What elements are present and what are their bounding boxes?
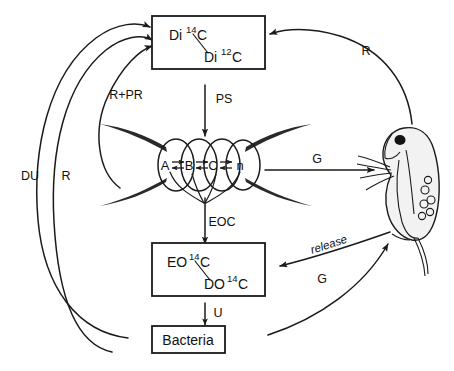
algal-chain-group: A B C n (100, 124, 312, 206)
spine-lower-left (100, 178, 167, 206)
eoc-label: EOC (208, 215, 235, 229)
dark-uptake-label: DU (21, 169, 39, 183)
dic-denominator-suffix: C (232, 49, 242, 65)
carbon-flow-diagram: A B C n (0, 0, 454, 371)
respiration-photorespiration-arc-group (99, 46, 152, 188)
eoc-numerator-prefix: EO (167, 254, 187, 270)
dic-numerator-sup: 14 (186, 24, 197, 35)
respiration-right-arc-group (270, 30, 412, 124)
eoc-denominator-prefix: DO (204, 276, 225, 292)
eoc-numerator-sup: 14 (189, 251, 200, 262)
respiration-right-arrow (270, 30, 412, 124)
zooplankton-daphnia (357, 128, 439, 276)
grazing-algae-label: G (312, 152, 322, 166)
algal-cell-b-label: B (185, 158, 194, 173)
daphnia-eye (395, 135, 406, 145)
uptake-label: U (213, 306, 222, 320)
diagram-canvas: A B C n (0, 0, 454, 371)
daphnia-antenna-3 (360, 173, 392, 178)
algal-cell-c-label: C (208, 158, 217, 173)
grazing-bacteria-arc-group (268, 244, 388, 335)
dic-denominator-prefix: Di (204, 49, 217, 65)
grazing-bacteria-label: G (317, 272, 327, 286)
algal-cell-a-label: A (161, 158, 170, 173)
respiration-photorespiration-label: R+PR (109, 88, 143, 102)
eoc-numerator-suffix: C (200, 254, 210, 270)
dic-numerator-prefix: Di (169, 27, 182, 43)
eoc-denominator-suffix: C (238, 276, 248, 292)
grazing-bacteria-arrow (268, 244, 388, 335)
respiration-right-label: R (361, 44, 370, 58)
spine-upper-left (100, 124, 167, 152)
bacteria-box-label: Bacteria (162, 332, 214, 348)
daphnia-tail-spine-2 (418, 238, 428, 274)
algal-cell-n-label: n (236, 158, 243, 173)
dic-denominator-sup: 12 (221, 46, 232, 57)
respiration-photorespiration-arrow (99, 46, 152, 188)
respiration-left-label: R (61, 169, 70, 183)
photosynthesis-label: PS (216, 92, 233, 106)
eoc-denominator-sup: 14 (227, 273, 238, 284)
daphnia-tail-spine (414, 238, 425, 276)
